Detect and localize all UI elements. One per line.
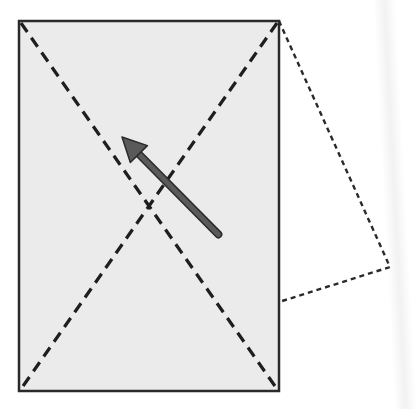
folded-flap-outline [279,21,390,302]
paper-fold-diagram [0,0,416,409]
